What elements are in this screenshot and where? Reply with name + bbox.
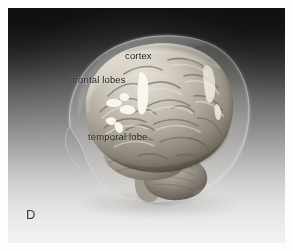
brain-anatomy-illustration: [8, 8, 285, 243]
figure-image-plate: cortex frontal lobes temporal lobe D: [8, 8, 285, 243]
figure-panel-d: cortex frontal lobes temporal lobe D: [0, 0, 293, 251]
panel-letter: D: [26, 208, 36, 222]
